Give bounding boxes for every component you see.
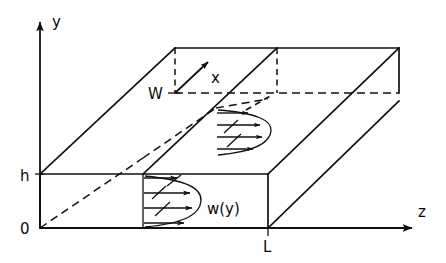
front-velocity-profile-group: w(y) xyxy=(144,175,240,227)
velocity-profile-label: w(y) xyxy=(207,200,240,218)
front-profile-envelope xyxy=(145,176,201,227)
hidden-edge-profile-top xyxy=(246,95,272,110)
edge-right-lower-diagonal xyxy=(268,101,399,228)
edge-interior-cut-diagonal xyxy=(143,48,277,174)
x-axis-group: x xyxy=(175,62,220,93)
hidden-edge-interior-link xyxy=(216,99,268,108)
interior-profile-envelope xyxy=(218,110,271,155)
interior-profile-depth-tick-1 xyxy=(224,120,238,133)
y-axis-group: y xyxy=(40,13,61,228)
origin-label: 0 xyxy=(20,220,30,238)
y-axis-label: y xyxy=(52,13,61,31)
hidden-edge-bottom-diagonal-lower xyxy=(40,158,143,228)
x-axis-line xyxy=(175,62,208,93)
edge-top-front-left-diagonal xyxy=(40,48,175,174)
interior-profile-depth-tick-2 xyxy=(227,134,241,147)
interior-velocity-profile-group xyxy=(217,110,271,155)
duct-velocity-profile-figure: y z x xyxy=(0,0,446,263)
z-axis-label: z xyxy=(418,203,426,221)
duct-diagram-svg: y z x xyxy=(0,0,446,263)
front-profile-depth-tick-3 xyxy=(167,175,181,186)
width-label: W xyxy=(148,85,163,103)
front-profile-depth-tick-2 xyxy=(155,202,170,216)
x-axis-label: x xyxy=(211,69,220,87)
length-label: L xyxy=(263,238,272,256)
edge-top-front-right-diagonal xyxy=(268,48,399,174)
height-label: h xyxy=(20,167,30,185)
